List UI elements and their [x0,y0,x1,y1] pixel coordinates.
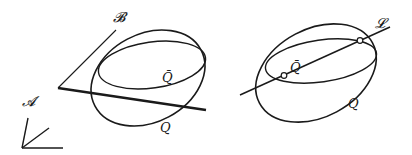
intersection-point-2 [357,38,363,44]
label-b: 𝓑 [113,9,128,25]
line-b [58,30,116,88]
ellipse-q-bar [95,35,208,96]
diagram-canvas: 𝓐 𝓑 Q̄ Q 𝓛 Q̄ Q [0,0,412,155]
ellipse-q [74,11,221,145]
axes-a-icon [22,118,63,148]
label-q-right: Q [348,96,359,111]
label-q-left: Q [160,120,171,135]
left-figure: 𝓐 𝓑 Q̄ Q [22,9,222,148]
label-q-bar-left: Q̄ [162,70,173,85]
label-q-bar-right: Q̄ [290,60,301,75]
thick-line [58,88,206,110]
ellipse-q-right [239,4,393,142]
label-a: 𝓐 [22,93,40,109]
intersection-point-1 [281,73,287,79]
right-figure: 𝓛 Q̄ Q [239,4,393,142]
